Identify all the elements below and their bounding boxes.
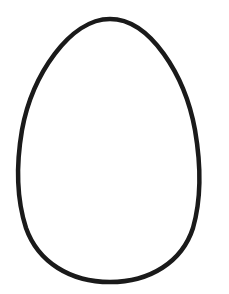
egg-shape bbox=[18, 19, 199, 282]
egg-outline-icon bbox=[0, 0, 229, 294]
egg-illustration: Simple black outline of an egg shape on … bbox=[0, 0, 229, 294]
